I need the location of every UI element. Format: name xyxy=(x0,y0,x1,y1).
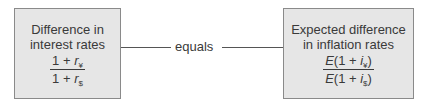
den-sub: $ xyxy=(78,79,82,88)
interest-ratio-denominator: 1 + r$ xyxy=(52,70,83,86)
connector-line-left xyxy=(121,47,171,48)
num-expectation: E xyxy=(325,53,334,68)
left-box-title-line1: Difference in xyxy=(31,22,104,37)
inflation-ratio-denominator: E(1 + i$) xyxy=(325,70,372,86)
equals-label: equals xyxy=(175,39,213,54)
num-prefix: 1 + xyxy=(52,53,74,68)
den-prefix: 1 + xyxy=(52,71,74,86)
num-prefix: (1 + xyxy=(334,53,360,68)
interest-rate-ratio: 1 + r¥ 1 + r$ xyxy=(50,53,85,86)
right-box-title-line1: Expected difference xyxy=(291,22,406,37)
num-suffix: ) xyxy=(368,53,372,68)
inflation-rate-difference-box: Expected difference in inflation rates E… xyxy=(283,8,414,99)
interest-ratio-numerator: 1 + r¥ xyxy=(50,53,85,70)
den-suffix: ) xyxy=(368,71,372,86)
den-prefix: (1 + xyxy=(334,71,360,86)
num-sub: ¥ xyxy=(78,61,82,70)
interest-rate-difference-box: Difference in interest rates 1 + r¥ 1 + … xyxy=(14,8,121,99)
connector-line-right xyxy=(222,47,283,48)
left-box-title-line2: interest rates xyxy=(30,37,105,52)
right-box-title-line2: in inflation rates xyxy=(303,37,394,52)
inflation-rate-ratio: E(1 + i¥) E(1 + i$) xyxy=(323,53,374,86)
inflation-ratio-numerator: E(1 + i¥) xyxy=(323,53,374,70)
den-expectation: E xyxy=(325,71,334,86)
